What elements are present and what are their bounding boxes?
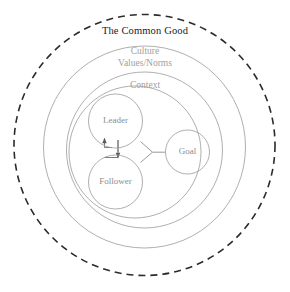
connector-follower-to-junction	[141, 152, 153, 162]
ring-label-context: Context	[0, 81, 290, 91]
ring-label-culture: Culture	[0, 47, 290, 57]
leadership-common-good-diagram: The Common Good Culture Values/Norms Con…	[0, 0, 290, 292]
node-label-leader[interactable]: Leader	[75, 116, 156, 125]
node-label-follower[interactable]: Follower	[75, 177, 156, 186]
diagram-title: The Common Good	[0, 25, 290, 36]
diagram-canvas	[0, 0, 290, 292]
connector-leader-to-junction	[141, 142, 153, 153]
node-label-goal[interactable]: Goal	[152, 147, 223, 156]
arrow-up-icon	[102, 138, 106, 144]
ring-label-values-norms: Values/Norms	[0, 59, 290, 69]
